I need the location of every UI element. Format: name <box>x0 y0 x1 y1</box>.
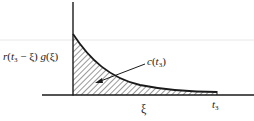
curve-close: ) <box>162 55 166 67</box>
curve-label: c(t3) <box>147 55 166 69</box>
x-axis-label: ξ <box>141 102 146 117</box>
endpoint-sub: 3 <box>215 104 219 112</box>
label-minus-xi: − ξ) <box>18 50 41 62</box>
y-axis-label: r(t3 − ξ) g(ξ) <box>3 50 58 64</box>
endpoint-label: t3 <box>212 98 219 112</box>
label-g-arg: (ξ) <box>46 50 58 62</box>
